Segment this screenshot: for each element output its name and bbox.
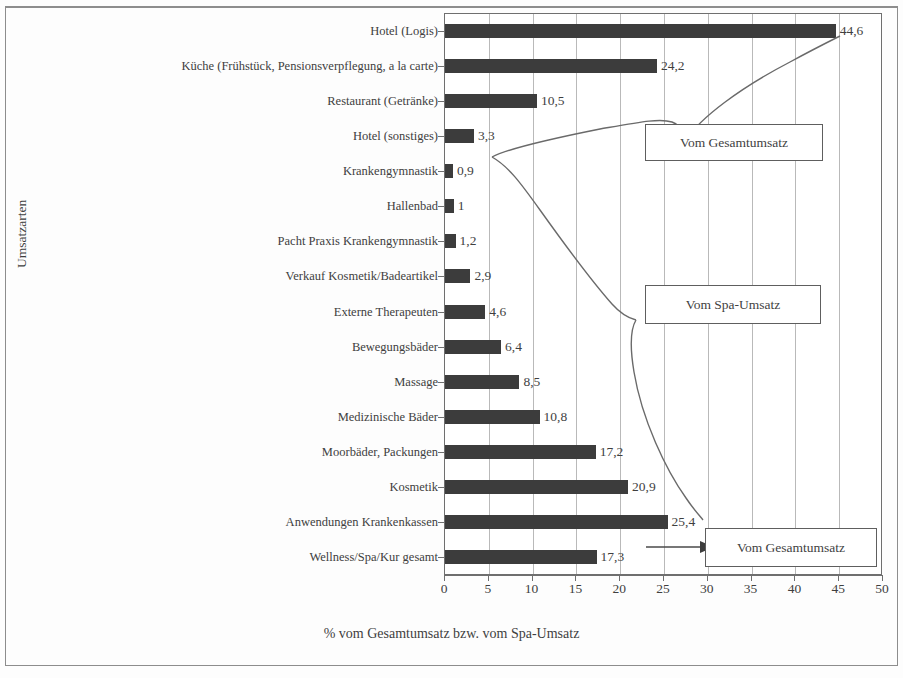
bar (445, 515, 668, 529)
callout-vom-gesamtumsatz-top: Vom Gesamtumsatz (645, 124, 823, 161)
bar-value-label: 17,2 (600, 445, 624, 459)
bar (445, 445, 596, 459)
category-label: Moorbäder, Packungen (322, 446, 438, 459)
bar-value-label: 1,2 (460, 234, 477, 248)
y-axis-tick (438, 31, 445, 32)
bar (445, 94, 537, 108)
chart-page: Hotel (Logis)44,6Küche (Frühstück, Pensi… (0, 0, 903, 678)
category-label: Restaurant (Getränke) (327, 95, 438, 108)
bar-row: Massage8,5 (0, 364, 903, 399)
category-label: Anwendungen Krankenkassen (286, 516, 438, 529)
bar (445, 24, 836, 38)
bar-row: Küche (Frühstück, Pensionsverpflegung, a… (0, 48, 903, 83)
y-axis-tick (438, 206, 445, 207)
x-axis-tick-label: 25 (656, 582, 670, 596)
bar (445, 550, 597, 564)
bar-row: Pacht Praxis Krankengymnastik1,2 (0, 224, 903, 259)
bar-value-label: 0,9 (457, 164, 474, 178)
x-axis-ticks: 05101520253035404550 (0, 575, 903, 605)
x-axis-tick-label: 20 (612, 582, 626, 596)
bar (445, 129, 474, 143)
bar-value-label: 4,6 (489, 305, 506, 319)
x-axis-tick-label: 15 (569, 582, 583, 596)
bar-value-label: 20,9 (632, 480, 656, 494)
bar (445, 269, 470, 283)
bar-row: Hallenbad1 (0, 189, 903, 224)
x-axis-tick-label: 50 (875, 582, 889, 596)
bar-row: Medizinische Bäder10,8 (0, 399, 903, 434)
y-axis-tick (438, 557, 445, 558)
x-axis-tick-label: 5 (484, 582, 491, 596)
y-axis-tick (438, 347, 445, 348)
y-axis-title: Umsatzarten (14, 248, 30, 268)
y-axis-tick (438, 276, 445, 277)
x-axis-tick-label: 30 (700, 582, 714, 596)
x-axis-title: % vom Gesamtumsatz bzw. vom Spa-Umsatz (0, 626, 903, 642)
x-axis-tick-label: 35 (744, 582, 758, 596)
category-label: Bewegungsbäder (352, 341, 438, 354)
category-label: Küche (Frühstück, Pensionsverpflegung, a… (181, 60, 438, 73)
bar (445, 59, 657, 73)
y-axis-tick (438, 312, 445, 313)
bar-row: Restaurant (Getränke)10,5 (0, 83, 903, 118)
y-axis-tick (438, 417, 445, 418)
callout-vom-gesamtumsatz-bottom: Vom Gesamtumsatz (705, 528, 877, 567)
category-label: Massage (394, 376, 438, 389)
bar (445, 375, 519, 389)
bar (445, 164, 453, 178)
category-label: Pacht Praxis Krankengymnastik (278, 235, 438, 248)
x-axis-tick-label: 40 (788, 582, 802, 596)
category-label: Hallenbad (387, 200, 438, 213)
bar-value-label: 24,2 (661, 59, 685, 73)
bar-row: Bewegungsbäder6,4 (0, 329, 903, 364)
bar-value-label: 8,5 (523, 375, 540, 389)
y-axis-tick (438, 171, 445, 172)
bar-row: Kosmetik20,9 (0, 470, 903, 505)
bar-value-label: 3,3 (478, 129, 495, 143)
bar-row: Hotel (Logis)44,6 (0, 13, 903, 48)
y-axis-tick (438, 487, 445, 488)
bar (445, 199, 454, 213)
bar-value-label: 25,4 (672, 515, 696, 529)
y-axis-tick (438, 382, 445, 383)
bar-value-label: 1 (458, 199, 465, 213)
bar-value-label: 2,9 (474, 269, 491, 283)
x-axis-tick-label: 45 (831, 582, 845, 596)
category-label: Hotel (sonstiges) (353, 130, 438, 143)
bar (445, 480, 628, 494)
y-axis-tick (438, 241, 445, 242)
category-label: Externe Therapeuten (334, 306, 438, 319)
category-label: Medizinische Bäder (338, 411, 438, 424)
bar-value-label: 6,4 (505, 340, 522, 354)
y-axis-tick (438, 136, 445, 137)
bar (445, 234, 456, 248)
category-label: Kosmetik (389, 481, 438, 494)
category-label: Krankengymnastik (343, 165, 438, 178)
y-axis-tick (438, 66, 445, 67)
category-label: Verkauf Kosmetik/Badeartikel (286, 270, 438, 283)
x-axis-tick-label: 0 (441, 582, 448, 596)
y-axis-tick (438, 522, 445, 523)
category-label: Hotel (Logis) (370, 25, 438, 38)
bar (445, 410, 540, 424)
y-axis-tick (438, 452, 445, 453)
callout-vom-spa-umsatz: Vom Spa-Umsatz (645, 285, 821, 324)
y-axis-tick (438, 101, 445, 102)
category-label: Wellness/Spa/Kur gesamt (310, 551, 439, 564)
bar-row: Moorbäder, Packungen17,2 (0, 435, 903, 470)
bar (445, 340, 501, 354)
x-axis-tick-label: 10 (525, 582, 539, 596)
bar-value-label: 17,3 (601, 550, 625, 564)
bar-value-label: 10,5 (541, 94, 565, 108)
bar-value-label: 44,6 (840, 24, 864, 38)
bar-value-label: 10,8 (544, 410, 568, 424)
bar (445, 305, 485, 319)
